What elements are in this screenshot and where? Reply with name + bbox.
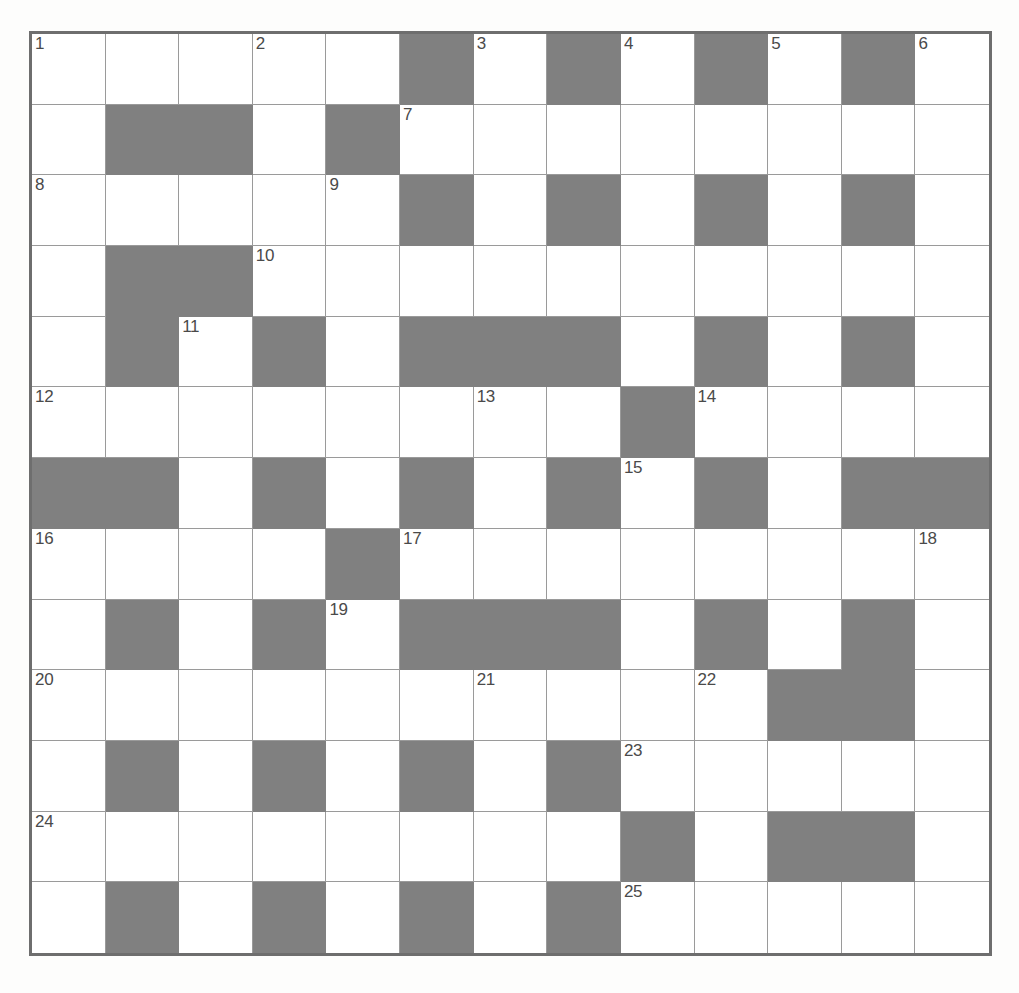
crossword-cell[interactable] xyxy=(547,105,621,176)
crossword-cell[interactable] xyxy=(621,600,695,671)
crossword-cell[interactable]: 18 xyxy=(915,529,989,600)
crossword-cell[interactable] xyxy=(179,600,253,671)
crossword-cell[interactable] xyxy=(547,812,621,883)
crossword-cell[interactable] xyxy=(915,175,989,246)
crossword-cell[interactable]: 8 xyxy=(32,175,106,246)
crossword-cell[interactable]: 15 xyxy=(621,458,695,529)
crossword-cell[interactable] xyxy=(621,175,695,246)
crossword-cell[interactable] xyxy=(768,105,842,176)
crossword-cell[interactable] xyxy=(474,105,548,176)
crossword-cell[interactable] xyxy=(474,529,548,600)
crossword-cell[interactable] xyxy=(179,529,253,600)
crossword-cell[interactable] xyxy=(32,600,106,671)
crossword-cell[interactable] xyxy=(106,670,180,741)
crossword-cell[interactable]: 17 xyxy=(400,529,474,600)
crossword-cell[interactable] xyxy=(621,246,695,317)
crossword-cell[interactable] xyxy=(179,812,253,883)
crossword-cell[interactable] xyxy=(326,458,400,529)
crossword-cell[interactable] xyxy=(842,529,916,600)
crossword-cell[interactable] xyxy=(915,600,989,671)
crossword-cell[interactable] xyxy=(768,175,842,246)
crossword-cell[interactable] xyxy=(179,175,253,246)
crossword-cell[interactable]: 23 xyxy=(621,741,695,812)
crossword-cell[interactable] xyxy=(32,246,106,317)
crossword-cell[interactable] xyxy=(842,882,916,953)
crossword-cell[interactable] xyxy=(106,529,180,600)
crossword-cell[interactable] xyxy=(547,529,621,600)
crossword-cell[interactable]: 25 xyxy=(621,882,695,953)
crossword-cell[interactable] xyxy=(695,741,769,812)
crossword-cell[interactable] xyxy=(326,670,400,741)
crossword-cell[interactable] xyxy=(253,812,327,883)
crossword-cell[interactable]: 10 xyxy=(253,246,327,317)
crossword-cell[interactable]: 7 xyxy=(400,105,474,176)
crossword-cell[interactable] xyxy=(253,105,327,176)
crossword-cell[interactable]: 22 xyxy=(695,670,769,741)
crossword-cell[interactable] xyxy=(915,317,989,388)
crossword-cell[interactable] xyxy=(768,741,842,812)
crossword-cell[interactable] xyxy=(842,741,916,812)
crossword-cell[interactable] xyxy=(915,741,989,812)
crossword-cell[interactable] xyxy=(547,670,621,741)
crossword-cell[interactable] xyxy=(621,317,695,388)
crossword-cell[interactable] xyxy=(768,882,842,953)
crossword-cell[interactable]: 13 xyxy=(474,387,548,458)
crossword-cell[interactable] xyxy=(621,670,695,741)
crossword-cell[interactable] xyxy=(768,317,842,388)
crossword-cell[interactable] xyxy=(842,387,916,458)
crossword-cell[interactable] xyxy=(915,387,989,458)
crossword-cell[interactable] xyxy=(179,882,253,953)
crossword-cell[interactable] xyxy=(768,458,842,529)
crossword-cell[interactable] xyxy=(253,387,327,458)
crossword-cell[interactable] xyxy=(253,529,327,600)
crossword-cell[interactable] xyxy=(32,882,106,953)
crossword-cell[interactable]: 24 xyxy=(32,812,106,883)
crossword-cell[interactable] xyxy=(915,882,989,953)
crossword-cell[interactable] xyxy=(400,812,474,883)
crossword-cell[interactable] xyxy=(326,882,400,953)
crossword-cell[interactable] xyxy=(474,458,548,529)
crossword-cell[interactable]: 2 xyxy=(253,34,327,105)
crossword-cell[interactable] xyxy=(915,812,989,883)
crossword-cell[interactable] xyxy=(253,670,327,741)
crossword-cell[interactable]: 19 xyxy=(326,600,400,671)
crossword-cell[interactable] xyxy=(695,882,769,953)
crossword-cell[interactable] xyxy=(768,387,842,458)
crossword-cell[interactable] xyxy=(621,529,695,600)
crossword-cell[interactable]: 11 xyxy=(179,317,253,388)
crossword-cell[interactable] xyxy=(768,529,842,600)
crossword-cell[interactable] xyxy=(474,175,548,246)
crossword-cell[interactable] xyxy=(474,741,548,812)
crossword-cell[interactable] xyxy=(326,34,400,105)
crossword-cell[interactable] xyxy=(474,812,548,883)
crossword-cell[interactable] xyxy=(32,741,106,812)
crossword-cell[interactable] xyxy=(179,34,253,105)
crossword-cell[interactable] xyxy=(621,105,695,176)
crossword-cell[interactable] xyxy=(253,175,327,246)
crossword-grid[interactable]: 1234567891011121314151617181920212223242… xyxy=(29,31,992,956)
crossword-cell[interactable] xyxy=(179,670,253,741)
crossword-cell[interactable]: 5 xyxy=(768,34,842,105)
crossword-cell[interactable] xyxy=(695,105,769,176)
crossword-cell[interactable]: 6 xyxy=(915,34,989,105)
crossword-cell[interactable]: 21 xyxy=(474,670,548,741)
crossword-cell[interactable] xyxy=(842,105,916,176)
crossword-cell[interactable] xyxy=(915,670,989,741)
crossword-cell[interactable] xyxy=(695,529,769,600)
crossword-cell[interactable] xyxy=(326,246,400,317)
crossword-cell[interactable]: 1 xyxy=(32,34,106,105)
crossword-cell[interactable] xyxy=(768,600,842,671)
crossword-cell[interactable] xyxy=(474,882,548,953)
crossword-cell[interactable] xyxy=(326,387,400,458)
crossword-cell[interactable]: 12 xyxy=(32,387,106,458)
crossword-cell[interactable] xyxy=(768,246,842,317)
crossword-cell[interactable] xyxy=(547,246,621,317)
crossword-cell[interactable] xyxy=(179,387,253,458)
crossword-cell[interactable] xyxy=(695,246,769,317)
crossword-cell[interactable] xyxy=(400,387,474,458)
crossword-cell[interactable] xyxy=(106,34,180,105)
crossword-cell[interactable] xyxy=(179,741,253,812)
crossword-cell[interactable] xyxy=(179,458,253,529)
crossword-cell[interactable] xyxy=(106,812,180,883)
crossword-cell[interactable]: 9 xyxy=(326,175,400,246)
